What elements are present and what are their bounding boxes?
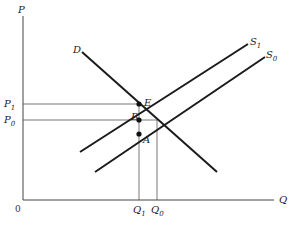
p1-label: P1 xyxy=(3,98,15,112)
point-e xyxy=(136,101,141,106)
point-a-label: A xyxy=(142,134,150,145)
demand-label: D xyxy=(72,44,81,55)
point-b-label: B xyxy=(130,111,138,122)
supply-curve-s0 xyxy=(95,57,265,172)
p0-label: P0 xyxy=(3,114,16,128)
s1-label: S1 xyxy=(250,36,261,50)
supply-demand-diagram: P Q 0 D S1 S0 P1 P0 Q1 Q0 E B A xyxy=(0,0,300,227)
point-e-label: E xyxy=(143,97,152,108)
s0-label: S0 xyxy=(266,49,278,63)
q0-label: Q0 xyxy=(151,204,164,218)
point-a xyxy=(136,131,141,136)
y-axis-label: P xyxy=(17,4,25,15)
origin-label: 0 xyxy=(15,204,21,214)
supply-curve-s1 xyxy=(80,44,248,152)
q1-label: Q1 xyxy=(133,204,146,218)
demand-curve xyxy=(82,52,217,172)
x-axis-label: Q xyxy=(279,194,287,205)
